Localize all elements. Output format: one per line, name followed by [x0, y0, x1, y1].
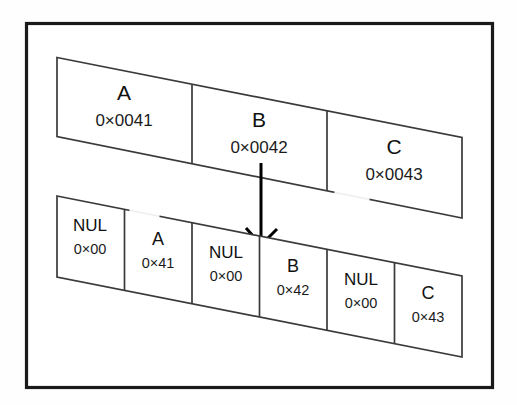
- wide-cell-2-char: B: [252, 108, 266, 131]
- byte-cell-1-char: NUL: [73, 216, 107, 235]
- byte-cell-4-char: B: [287, 256, 299, 276]
- byte-cell-2-char: A: [152, 229, 164, 249]
- byte-cell-5-char: NUL: [344, 270, 378, 289]
- byte-cell-3-code: 0×00: [210, 268, 243, 284]
- byte-cell-6-char: C: [422, 283, 435, 303]
- byte-cell-6-code: 0×43: [412, 309, 445, 325]
- byte-cell-5-code: 0×00: [345, 295, 378, 311]
- diagram-canvas: A 0×0041 B 0×0042 C 0×0043: [0, 0, 517, 405]
- wide-cell-1-char: A: [117, 81, 131, 104]
- wide-cell-2-code: 0×0042: [230, 138, 287, 157]
- byte-cell-3-char: NUL: [209, 243, 243, 262]
- byte-cell-1-code: 0×00: [74, 241, 107, 257]
- wide-cell-3-char: C: [386, 135, 401, 158]
- wide-cell-1-code: 0×0041: [95, 111, 152, 130]
- byte-cell-2-code: 0×41: [142, 255, 175, 271]
- wide-cell-3-code: 0×0043: [365, 165, 422, 184]
- byte-cell-4-code: 0×42: [277, 282, 310, 298]
